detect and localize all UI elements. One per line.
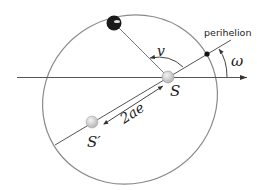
planet-icon — [107, 16, 122, 31]
empty-focus — [86, 116, 98, 128]
true-anomaly-arc — [150, 57, 183, 67]
sun-label: S — [170, 82, 180, 100]
true-anomaly-label: v — [157, 43, 165, 59]
omega-arc — [219, 49, 227, 77]
empty-focus-label: S′ — [87, 133, 101, 151]
perihelion-label: perihelion — [204, 27, 251, 38]
omega-label: ω — [231, 52, 243, 70]
apsidal-line — [55, 40, 231, 145]
focal-distance-label: 2ae — [116, 99, 147, 127]
orbit-diagram: perihelion ω v S S′ 2ae — [0, 0, 257, 190]
perihelion-point — [204, 51, 209, 56]
